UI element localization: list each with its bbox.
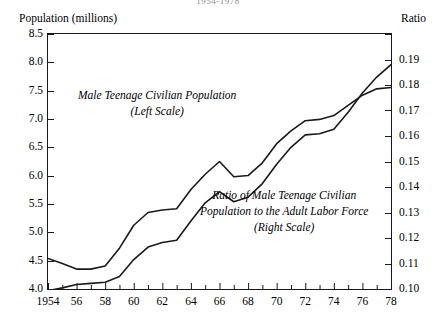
x-tick-label: 58: [99, 296, 111, 308]
left-tick-label: 4.0: [29, 283, 43, 295]
left-tick-label: 8.5: [29, 28, 43, 40]
right-tick-label: 0.13: [399, 207, 419, 219]
plot-svg: [48, 34, 391, 289]
right-tick-label: 0.14: [399, 181, 419, 193]
series-label-ratio-line3: (Right Scale): [200, 220, 368, 236]
series-label-population: Male Teenage Civilian Population (Left S…: [78, 88, 236, 120]
right-tick-label: 0.15: [399, 156, 419, 168]
chart-figure: 1954-1978 Population (millions) Ratio 8.…: [0, 0, 436, 325]
chart-title: 1954-1978: [0, 0, 436, 6]
x-tick-label: 62: [157, 296, 169, 308]
right-axis-tick-labels: 0.190.180.170.160.150.140.130.120.110.10: [399, 33, 436, 290]
right-tick-label: 0.12: [399, 232, 419, 244]
series-label-ratio: Ratio of Male Teenage Civilian Populatio…: [200, 188, 368, 236]
left-tick-label: 6.0: [29, 170, 43, 182]
x-tick-label: 64: [185, 296, 197, 308]
left-tick-label: 6.5: [29, 142, 43, 154]
x-tick-label: 78: [385, 296, 397, 308]
right-tick-label: 0.11: [399, 258, 419, 270]
left-tick-label: 4.5: [29, 255, 43, 267]
right-tick-label: 0.17: [399, 105, 419, 117]
left-tick-label: 7.5: [29, 85, 43, 97]
series-label-ratio-line2: Population to the Adult Labor Force: [200, 204, 368, 220]
left-tick-label: 7.0: [29, 113, 43, 125]
x-tick-label: 74: [328, 296, 340, 308]
right-tick-label: 0.19: [399, 54, 419, 66]
x-tick-label: 76: [357, 296, 369, 308]
left-tick-label: 8.0: [29, 57, 43, 69]
series-label-population-line1: Male Teenage Civilian Population: [78, 88, 236, 104]
series-label-population-line2: (Left Scale): [78, 104, 236, 120]
left-tick-label: 5.5: [29, 198, 43, 210]
series-label-ratio-line1: Ratio of Male Teenage Civilian: [200, 188, 368, 204]
plot-area: [47, 33, 392, 290]
x-tick-label: 68: [242, 296, 254, 308]
x-tick-label: 72: [300, 296, 312, 308]
right-tick-label: 0.10: [399, 283, 419, 295]
x-tick-label: 70: [271, 296, 283, 308]
x-tick-label: 66: [214, 296, 226, 308]
x-axis-tick-labels: 1954565860626466687072747678: [47, 296, 392, 314]
right-tick-label: 0.18: [399, 79, 419, 91]
left-tick-label: 5.0: [29, 227, 43, 239]
x-tick-label: 56: [71, 296, 83, 308]
left-axis-title: Population (millions): [19, 12, 117, 24]
right-tick-label: 0.16: [399, 130, 419, 142]
x-tick-label: 1954: [37, 296, 60, 308]
right-axis-title: Ratio: [401, 12, 426, 24]
left-axis-tick-labels: 8.58.07.57.06.56.05.55.04.54.0: [0, 33, 43, 290]
x-tick-label: 60: [128, 296, 140, 308]
